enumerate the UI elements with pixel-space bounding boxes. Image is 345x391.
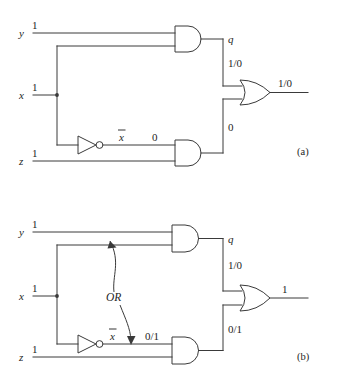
label-and-bottom-output-value-b: 0/1 <box>228 323 242 335</box>
label-and-bottom-output-value-a: 0 <box>228 121 234 133</box>
panel-a: y 1 x 1 z 1 x 0 q 1/0 0 1/0 (a) <box>18 19 309 167</box>
and-gate-bottom-b <box>172 337 199 364</box>
label-q-a: q <box>228 33 234 45</box>
inverter-bubble-b <box>96 341 103 348</box>
label-input-x-b: x <box>18 290 24 302</box>
label-input-x-a: x <box>18 89 24 101</box>
label-input-y-value-a: 1 <box>32 19 38 31</box>
label-input-z-value-b: 1 <box>32 343 38 355</box>
or-gate-output-b <box>240 285 270 311</box>
annotation-curve-lower-b <box>120 305 131 340</box>
label-notx-b: x <box>109 330 115 342</box>
label-input-z-b: z <box>18 351 24 363</box>
label-q-value-a: 1/0 <box>228 57 243 69</box>
label-input-x-value-a: 1 <box>32 81 38 93</box>
annotation-or-label-b: OR <box>106 291 121 303</box>
label-and-bottom-input-value-b: 0/1 <box>145 330 159 342</box>
caption-panel-a: (a) <box>297 146 309 158</box>
label-notx-a: x <box>118 131 124 143</box>
caption-panel-b: (b) <box>297 351 310 363</box>
inverter-bubble-a <box>96 142 103 149</box>
circuit-diagram-svg: y 1 x 1 z 1 x 0 q 1/0 0 1/0 (a) <box>0 0 345 391</box>
and-gate-bottom-a <box>175 140 201 166</box>
label-input-z-value-a: 1 <box>32 147 38 159</box>
and-gate-top-b <box>172 225 199 252</box>
or-gate-output-a <box>240 80 270 105</box>
label-q-value-b: 1/0 <box>228 259 243 271</box>
panel-b: OR y 1 x 1 z 1 x 0/1 q 1/0 0/1 1 (b) <box>18 218 310 364</box>
label-input-y-value-b: 1 <box>32 218 38 230</box>
label-q-b: q <box>228 233 234 245</box>
and-gate-top-a <box>175 26 201 52</box>
annotation-curve-upper-b <box>110 241 116 292</box>
label-and-bottom-input-value-a: 0 <box>152 131 158 143</box>
label-input-y-a: y <box>18 27 24 39</box>
label-input-x-value-b: 1 <box>32 282 38 294</box>
label-input-y-b: y <box>18 226 24 238</box>
label-input-z-a: z <box>18 155 24 167</box>
figure-root: y 1 x 1 z 1 x 0 q 1/0 0 1/0 (a) <box>0 0 345 391</box>
label-output-value-a: 1/0 <box>278 77 293 89</box>
inverter-triangle-a <box>78 136 96 154</box>
label-output-value-b: 1 <box>282 283 288 295</box>
inverter-triangle-b <box>78 335 96 353</box>
